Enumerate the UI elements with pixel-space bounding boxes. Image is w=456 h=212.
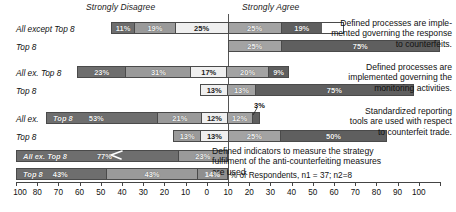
axis-tick	[270, 182, 271, 186]
axis-tick	[398, 182, 399, 186]
segment-g1r1-2: 19%	[135, 23, 175, 33]
segment-g2r2-2: 13%	[228, 85, 255, 95]
segment-g1r1-4: 25%	[229, 23, 282, 33]
bar-g1r1[interactable]: 11% 19% 25% 25% 19%	[111, 22, 344, 34]
axis-tick	[376, 182, 377, 186]
bar-g2r1[interactable]: 23% 31% 17% 20% 9%	[77, 66, 289, 78]
segment-g4r2-2: 43%	[107, 169, 197, 179]
axis-label: 90	[393, 188, 402, 197]
row-label-g2r2: Top 8	[16, 86, 36, 96]
axis-label: 80	[372, 188, 381, 197]
segment-g3r1-1: Top 853%	[47, 113, 158, 123]
axis-tick	[355, 182, 356, 186]
statement-text-1: Defined processes are imple- mented gove…	[300, 18, 452, 49]
segment-g3r2-3: 25%	[229, 131, 281, 141]
axis-label: 50	[96, 188, 105, 197]
row-label-g2r1: All ex. Top 8	[16, 68, 61, 78]
segment-g2r1-3: 17%	[191, 67, 227, 77]
segment-g2r1-1: 23%	[78, 67, 126, 77]
axis-tick	[249, 182, 250, 186]
row-label-g1r2: Top 8	[16, 42, 36, 52]
axis-label: 60	[75, 188, 84, 197]
axis-label: 70	[54, 188, 63, 197]
axis-footnote: % of Respondents, n1 = 37; n2=8	[230, 171, 352, 180]
axis-label: 0	[205, 188, 210, 197]
axis-tick	[419, 182, 420, 186]
segment-g2r1-5: 9%	[269, 67, 288, 77]
axis-tick	[58, 182, 59, 186]
axis-tick	[207, 182, 208, 186]
axis-label: 10	[223, 188, 232, 197]
segment-g3r1-3: 12%	[202, 113, 227, 123]
scale-header-agree: Strongly Agree	[242, 2, 299, 12]
axis-tick	[313, 182, 314, 186]
bar-g4r2[interactable]: Top 843% 43% 14%	[16, 168, 228, 180]
axis-tick	[292, 182, 293, 186]
axis-tick	[37, 182, 38, 186]
segment-g4r1-1: All ex. Top 877%	[17, 151, 179, 161]
statement-text-3: Standardized reporting tools are used wi…	[300, 106, 452, 137]
axis-label: 70	[351, 188, 360, 197]
segment-g1r1-3: 25%	[176, 23, 229, 33]
axis-label: 50	[308, 188, 317, 197]
axis-label: 80	[33, 188, 42, 197]
axis-tick	[101, 182, 102, 186]
x-axis	[16, 182, 440, 187]
axis-tick	[80, 182, 81, 186]
segment-g3r1-2: 21%	[158, 113, 202, 123]
axis-label: 10	[181, 188, 190, 197]
axis-tick	[16, 182, 17, 186]
segment-g2r1-4: 20%	[227, 67, 269, 77]
segment-g4r2-1: Top 843%	[17, 169, 107, 179]
segment-g3r2-1: 13%	[174, 131, 201, 141]
row-label-g3r1: All ex.	[16, 114, 39, 124]
axis-label: 20	[160, 188, 169, 197]
segment-g2r1-2: 31%	[126, 67, 191, 77]
statement-text-2: Defined processes are implemented govern…	[300, 62, 452, 93]
axis-label: 100	[412, 188, 426, 197]
axis-label: 40	[287, 188, 296, 197]
axis-label: 30	[266, 188, 275, 197]
callout-leader-line	[252, 108, 264, 116]
axis-tick	[334, 182, 335, 186]
axis-tick	[440, 182, 441, 186]
segment-g1r2-1: 25%	[229, 41, 282, 51]
row-label-g1r1: All except Top 8	[16, 24, 75, 34]
segment-g2r2-1: 13%	[201, 85, 228, 95]
axis-label: 60	[329, 188, 338, 197]
segment-g1r1-1: 11%	[112, 23, 135, 33]
axis-label: 40	[117, 188, 126, 197]
row-label-g3r2: Top 8	[16, 132, 36, 142]
segment-g3r1-4: 12%	[228, 113, 253, 123]
axis-label: 20	[245, 188, 254, 197]
axis-tick	[164, 182, 165, 186]
chart-canvas: Strongly Disagree Strongly Agree All exc…	[0, 0, 456, 212]
axis-tick	[186, 182, 187, 186]
axis-tick	[143, 182, 144, 186]
axis-label: 30	[139, 188, 148, 197]
scale-header-disagree: Strongly Disagree	[86, 2, 155, 12]
axis-tick	[228, 182, 229, 186]
axis-tick	[122, 182, 123, 186]
axis-label: 100	[13, 188, 27, 197]
segment-g3r2-2: 13%	[201, 131, 228, 141]
bar-g3r1[interactable]: Top 853% 21% 12% 12%	[46, 112, 260, 124]
